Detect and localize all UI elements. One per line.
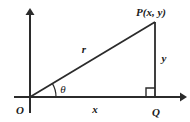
angle-arc-icon [52, 83, 56, 97]
point-p-label: P(x, y) [136, 6, 166, 19]
angle-label-theta: θ [60, 83, 66, 95]
hypotenuse-label-r: r [82, 43, 87, 55]
hypotenuse-segment-op [30, 22, 155, 97]
point-q-label: Q [152, 106, 160, 118]
horizontal-leg-label-x: x [91, 103, 98, 115]
y-axis-arrowhead-icon [26, 8, 35, 15]
diagram-canvas: P(x, y) O Q r y x θ [0, 0, 190, 122]
triangle-diagram: P(x, y) O Q r y x θ [0, 0, 190, 122]
vertical-leg-label-y: y [160, 52, 167, 64]
right-angle-marker-icon [146, 88, 155, 97]
x-axis-arrowhead-icon [180, 93, 187, 102]
origin-label: O [16, 104, 24, 116]
